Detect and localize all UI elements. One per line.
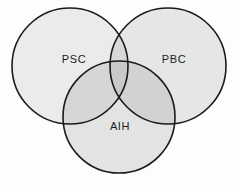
- venn-diagram-canvas: PSC PBC AIH: [0, 0, 239, 185]
- venn-label-aih: AIH: [110, 120, 130, 132]
- venn-label-pbc: PBC: [162, 53, 186, 65]
- venn-label-psc: PSC: [62, 53, 86, 65]
- venn-diagram-container: PSC PBC AIH: [0, 0, 239, 185]
